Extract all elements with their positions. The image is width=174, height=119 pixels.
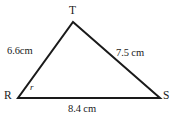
side-length-label-rs: 8.4 cm [68,104,96,115]
side-length-label-ts: 7.5 cm [116,48,144,59]
triangle-path [18,22,160,98]
triangle-outline [0,0,174,119]
angle-label-r: r [30,83,34,92]
vertex-label-s: S [163,90,169,102]
vertex-label-t: T [69,5,76,17]
triangle-figure: T R S 6.6cm 7.5 cm 8.4 cm r [0,0,174,119]
vertex-label-r: R [4,90,12,102]
side-length-label-rt: 6.6cm [7,46,32,57]
